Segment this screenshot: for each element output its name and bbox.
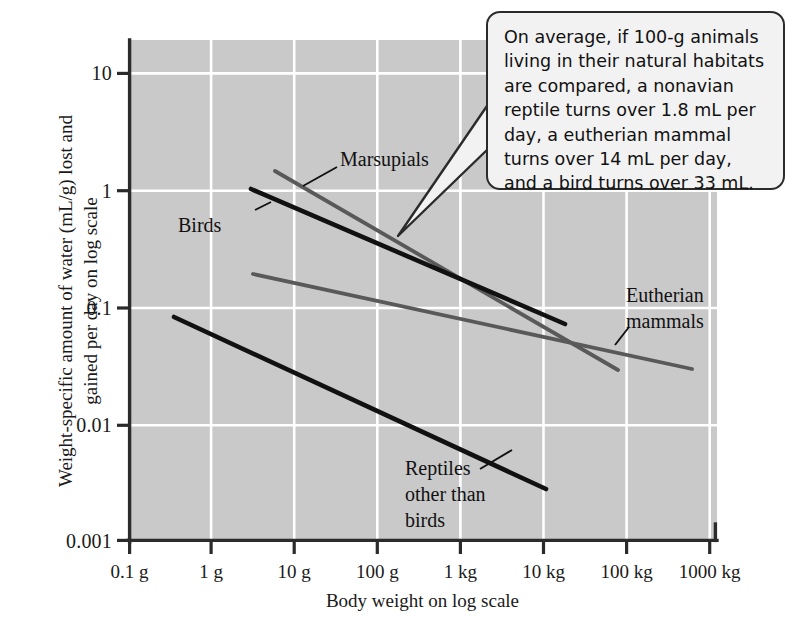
water-turnover-chart: 10 1 0.1 0.01 0.001 0.1 g 1 g 10 g 100 g… [0, 0, 802, 628]
x-axis-title: Body weight on log scale [128, 590, 717, 612]
series-label-marsupials: Marsupials [340, 148, 429, 171]
y-axis-title-line-2: gained per day on log scale [80, 197, 101, 404]
series-label-birds: Birds [178, 214, 221, 237]
series-label-reptiles-line-2: other than [405, 483, 486, 505]
y-axis-title-line-1: Weight-specific amount of water (mL/g) l… [55, 115, 76, 487]
y-axis-title: Weight-specific amount of water (mL/g) l… [53, 51, 103, 551]
series-label-eutherian-line-1: Eutherian [626, 284, 704, 306]
xtick-label-1000kg: 1000 kg [660, 562, 760, 581]
leader-lines [255, 167, 629, 469]
series-label-reptiles-line-3: birds [405, 509, 445, 531]
series-label-eutherian-mammals: Eutherian mammals [626, 282, 704, 334]
series-label-eutherian-line-2: mammals [626, 310, 704, 332]
series-label-reptiles-other-than-birds: Reptiles other than birds [405, 455, 486, 533]
series-label-reptiles-line-1: Reptiles [405, 457, 471, 479]
leader-line-marsupials [303, 167, 337, 186]
callout-box: On average, if 100-g animals living in t… [486, 11, 785, 190]
series-line-birds [251, 189, 565, 324]
leader-line-birds [255, 202, 271, 210]
